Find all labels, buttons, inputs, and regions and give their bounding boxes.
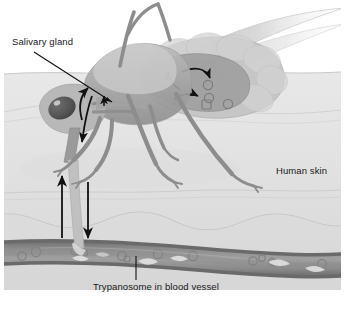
diagram-figure: Salivary gland Human skin Trypanosome in… bbox=[0, 0, 345, 311]
label-salivary-gland: Salivary gland bbox=[12, 37, 73, 47]
corner-artifact-mark bbox=[2, 300, 14, 307]
label-human-skin: Human skin bbox=[276, 166, 327, 176]
label-trypanosome-in-blood-vessel: Trypanosome in blood vessel bbox=[93, 282, 219, 292]
